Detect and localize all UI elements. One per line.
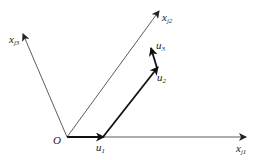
vector-u2 [103,67,158,137]
axis-xj2 [67,11,159,137]
vector-u3 [151,48,157,68]
vector-label-u1: u1 [96,141,105,155]
axis-label-xj3: xj3 [8,33,20,47]
vector-label-u2: u2 [157,71,167,85]
axis-label-xj2: xj2 [161,11,173,25]
axis-xj3 [23,34,67,137]
origin-label: O [53,134,61,146]
vector-label-u3: u3 [156,39,166,53]
axis-label-xj1: xj1 [235,142,246,156]
coordinate-diagram: O xj1 xj2 xj3 u1 u2 u3 [0,0,256,160]
diagram-canvas: O xj1 xj2 xj3 u1 u2 u3 [0,0,256,160]
